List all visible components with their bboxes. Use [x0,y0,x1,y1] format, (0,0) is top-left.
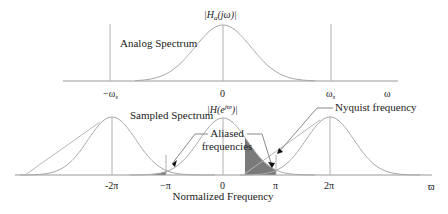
analog-magnitude-label: |Ha(jω)| [204,9,237,22]
tick-ws: ωs [326,88,336,101]
sampled-spectrum-plot: Sampled Spectrum |H(ejϖ)| Aliased freque… [15,101,435,202]
tick-minus-2pi: -2π [105,180,118,191]
analog-spectrum-curve [135,25,315,81]
tick-2pi: 2π [324,180,334,191]
sampled-spectrum-label: Sampled Spectrum [130,109,214,121]
tick-minus-pi: −π [160,180,171,191]
sampling-spectrum-diagram: Analog Spectrum |Ha(jω)| −ωs 0 ωs ω Samp… [0,0,448,214]
summed-spectrum-right [243,120,320,175]
aliased-label-line1: Aliased [210,127,244,139]
summed-spectrum-left [25,122,100,175]
aliased-label-line2: frequencies [202,140,253,152]
nyquist-label: Nyquist frequency [335,101,417,113]
analog-spectrum-label: Analog Spectrum [120,37,198,49]
bottom-axis-label: ϖ [428,181,435,192]
top-axis-label: ω [384,88,391,99]
diagram-canvas: Analog Spectrum |Ha(jω)| −ωs 0 ωs ω Samp… [0,0,448,214]
tick-pi: π [273,180,278,191]
sampled-magnitude-label: |H(ejϖ)| [207,103,238,116]
tick-minus-ws: −ωs [103,88,118,101]
normalized-frequency-label: Normalized Frequency [172,190,274,202]
tick-zero-top: 0 [220,88,225,99]
analog-spectrum-plot: Analog Spectrum |Ha(jω)| −ωs 0 ωs ω [63,9,398,101]
